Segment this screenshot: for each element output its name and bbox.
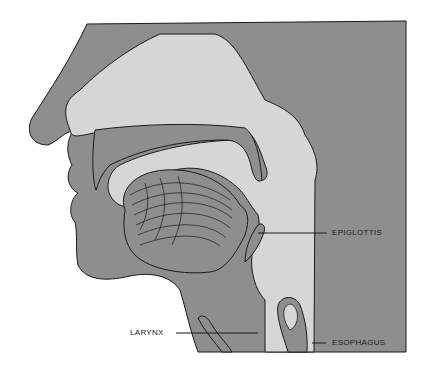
label-esophagus: ESOPHAGUS xyxy=(332,338,385,347)
head-cross-section-diagram xyxy=(0,0,429,383)
label-larynx: LARYNX xyxy=(130,328,164,337)
label-epiglottis: EPIGLOTTIS xyxy=(332,228,382,237)
